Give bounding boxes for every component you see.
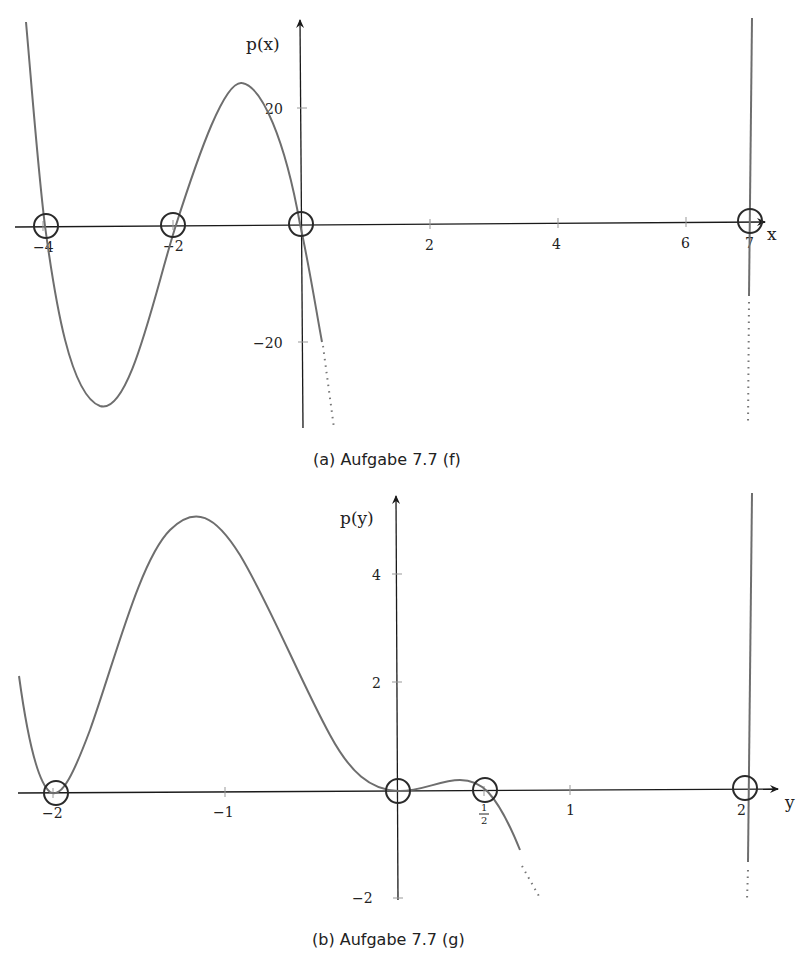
- curve-continuation-dotted: [747, 870, 748, 900]
- y-tick-label: −20: [253, 335, 283, 351]
- x-tick-label: 2: [737, 802, 746, 818]
- x-tick-label: −1: [213, 804, 234, 820]
- x-tick-label: 6: [681, 235, 690, 251]
- caption-a: (a) Aufgabe 7.7 (f): [313, 450, 461, 469]
- x-tick-label-half: 1 2: [479, 802, 489, 826]
- y-axis-label: p(x): [246, 34, 280, 54]
- svg-text:2: 2: [481, 815, 487, 826]
- y-tick-label: −2: [352, 890, 373, 906]
- y-tick-label: 4: [372, 567, 381, 583]
- polynomial-curve: [19, 516, 520, 850]
- polynomial-curve-right-branch: [748, 493, 752, 862]
- x-tick-label: −2: [42, 805, 63, 821]
- curve-continuation-dotted: [522, 866, 540, 898]
- x-axis-label: y: [784, 792, 795, 812]
- x-axis-label: x: [767, 224, 777, 244]
- x-axis: [15, 222, 765, 227]
- y-axis: [396, 496, 398, 900]
- x-ticks: [43, 217, 686, 231]
- svg-text:1: 1: [481, 802, 487, 813]
- x-tick-label: −4: [33, 239, 54, 255]
- caption-b: (b) Aufgabe 7.7 (g): [312, 930, 465, 949]
- polynomial-curve-right-branch: [749, 18, 752, 296]
- y-tick-label: 20: [265, 101, 283, 117]
- chart-b: −2 −1 1 2 1 2 4 2 −2 p(y) y (b) Aufgabe …: [18, 493, 795, 949]
- x-tick-label: 4: [552, 236, 561, 252]
- x-tick-label: 1: [566, 802, 575, 818]
- figure: −4 −2 2 4 6 7 20 −20 p(x) x (a) Aufgabe …: [0, 0, 812, 971]
- y-tick-label: 2: [372, 675, 381, 691]
- chart-a: −4 −2 2 4 6 7 20 −20 p(x) x (a) Aufgabe …: [15, 18, 777, 469]
- x-tick-label: −2: [163, 238, 184, 254]
- x-tick-label: 2: [425, 237, 434, 253]
- y-axis-label: p(y): [340, 508, 374, 528]
- root-marker: [733, 776, 757, 800]
- curve-continuation-dotted: [748, 302, 749, 425]
- curve-continuation-dotted: [323, 346, 334, 428]
